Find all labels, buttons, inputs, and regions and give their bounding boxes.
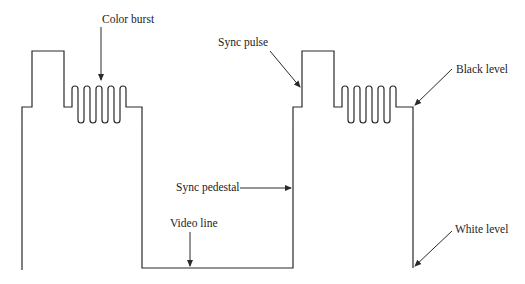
- white-level-arrow: [415, 231, 452, 266]
- video-line-label: Video line: [170, 218, 218, 230]
- sync-pulse-arrow: [270, 51, 300, 87]
- waveform-line-1: [22, 51, 413, 270]
- white-level-label: White level: [455, 224, 508, 236]
- sync-pedestal-label: Sync pedestal: [176, 182, 240, 194]
- black-level-label: Black level: [456, 64, 508, 76]
- sync-pulse-label: Sync pulse: [218, 37, 268, 49]
- color-burst-label: Color burst: [102, 14, 154, 26]
- black-level-arrow: [415, 69, 452, 105]
